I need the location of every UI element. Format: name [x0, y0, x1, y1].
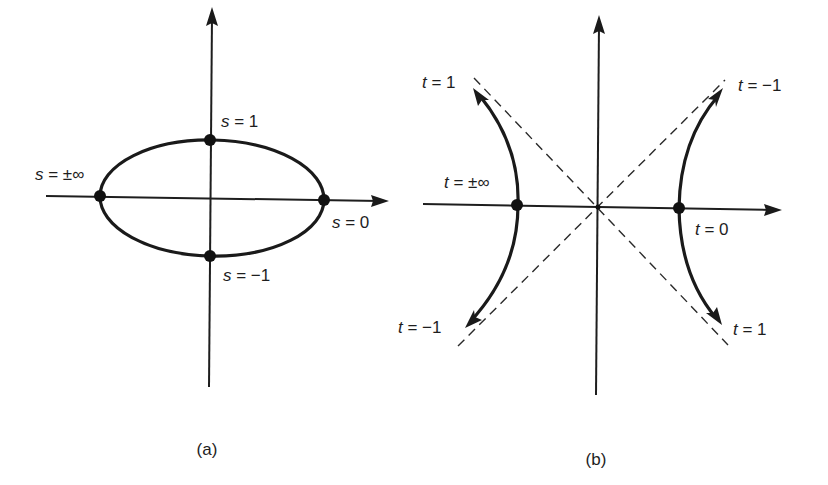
panel-b-label-left-vertex: t = ±∞: [444, 173, 490, 192]
panel-b-label-upper-left: t = 1: [422, 73, 456, 92]
panel-a-y-axis: [209, 16, 212, 387]
panel-a-point-top: [204, 134, 216, 146]
panel-b-label-lower-right: t = 1: [733, 320, 767, 339]
panel-a: s = 1 s = −1 s = ±∞ s = 0 (a): [35, 7, 389, 459]
panel-b-label-lower-left: t = −1: [398, 318, 442, 337]
panel-b-caption: (b): [586, 450, 607, 469]
panel-a-point-bottom: [204, 250, 216, 262]
panel-b-left-branch: [470, 96, 518, 322]
panel-a-label-bottom: s = −1: [223, 266, 270, 285]
panel-b: t = 1 t = −1 t = ±∞ t = 0 t = −1 t = 1 (…: [398, 15, 782, 469]
panel-a-x-axis-arrow-icon: [371, 195, 389, 207]
panel-a-point-right: [318, 194, 330, 206]
parametrization-figure: s = 1 s = −1 s = ±∞ s = 0 (a): [0, 0, 828, 485]
panel-b-label-right-vertex: t = 0: [695, 220, 729, 239]
panel-b-point-right-vertex: [673, 202, 685, 214]
panel-b-label-upper-right: t = −1: [738, 76, 782, 95]
panel-b-asymptote-descending: [474, 78, 728, 345]
panel-a-label-top: s = 1: [221, 112, 258, 131]
panel-b-x-axis-arrow-icon: [764, 204, 782, 216]
panel-a-point-left: [94, 190, 106, 202]
panel-a-caption: (a): [197, 440, 218, 459]
panel-b-origin: [596, 205, 601, 210]
panel-a-label-left: s = ±∞: [35, 165, 84, 184]
panel-b-point-left-vertex: [511, 199, 523, 211]
panel-a-label-right: s = 0: [332, 213, 369, 232]
